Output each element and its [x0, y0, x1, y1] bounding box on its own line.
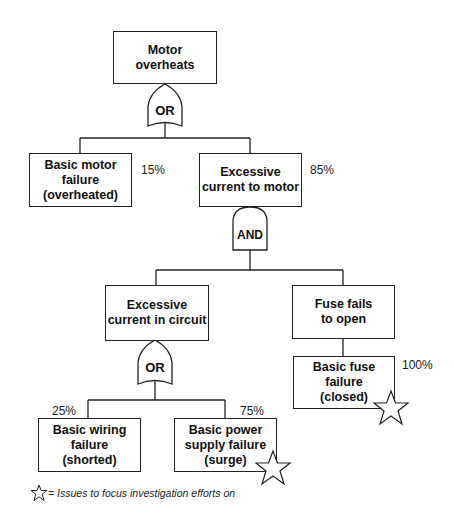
star-icon	[254, 449, 292, 487]
legend-text: = Issues to focus investigation efforts …	[48, 487, 235, 499]
event-basic-wiring-failure: Basic wiring failure (shorted)	[38, 418, 141, 472]
or-gate-1-label: OR	[148, 103, 182, 118]
or-gate-2-label: OR	[138, 360, 172, 375]
star-icon	[30, 484, 48, 502]
legend: = Issues to focus investigation efforts …	[30, 484, 235, 502]
top-event-motor-overheats: Motor overheats	[113, 31, 217, 84]
and-gate-label: AND	[233, 228, 267, 242]
pct-excessive-motor: 85%	[310, 163, 334, 177]
event-excessive-current-motor: Excessive current to motor	[199, 153, 302, 207]
pct-basic-motor: 15%	[141, 163, 165, 177]
event-fuse-fails: Fuse fails to open	[292, 285, 395, 339]
pct-fuse-failure: 100%	[402, 358, 433, 372]
pct-wiring: 25%	[52, 404, 76, 418]
event-excessive-current-circuit: Excessive current in circuit	[105, 285, 209, 341]
event-basic-motor-failure: Basic motor failure (overheated)	[29, 153, 132, 207]
star-icon	[372, 389, 410, 427]
pct-power: 75%	[240, 404, 264, 418]
